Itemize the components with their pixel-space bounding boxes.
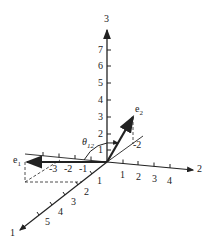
tick-3-5: 5	[98, 78, 103, 88]
theta12-label: θ12	[82, 137, 94, 150]
diagram-canvas: 3 2 1 1 2 3 4 5 6 7 1 2 3 4 -3 -2 -1 -2 …	[0, 0, 212, 248]
tick-3-6: 6	[98, 61, 103, 71]
axis-2-label: 2	[197, 164, 202, 174]
tick-3-4: 4	[98, 95, 103, 105]
tick-2-neg1: -1	[79, 164, 87, 174]
tick-2-neg3: -3	[49, 164, 57, 174]
tick-3-2: 2	[98, 129, 103, 139]
axis-1-label: 1	[10, 228, 15, 238]
tick-2-3: 3	[152, 174, 157, 184]
axes-drawing	[0, 0, 212, 248]
tick-2-neg2: -2	[64, 164, 72, 174]
tick-2-1: 1	[120, 170, 125, 180]
vector-e2	[107, 117, 133, 162]
e2-label: e2	[135, 104, 143, 117]
tick-1-5: 5	[45, 217, 50, 227]
tick-3-7: 7	[98, 45, 103, 55]
tick-1-neg2: -2	[133, 140, 141, 150]
tick-1-3: 3	[71, 197, 76, 207]
tick-2-4: 4	[167, 176, 172, 186]
e1-label: e1	[13, 155, 21, 168]
tick-3-3: 3	[98, 112, 103, 122]
axis-2-negative	[25, 154, 107, 162]
tick-3-1: 1	[98, 145, 103, 155]
tick-1-4: 4	[58, 207, 63, 217]
tick-1-2: 2	[84, 187, 89, 197]
axis-3-label: 3	[104, 14, 109, 24]
tick-2-2: 2	[136, 172, 141, 182]
tick-1-1: 1	[97, 176, 102, 186]
